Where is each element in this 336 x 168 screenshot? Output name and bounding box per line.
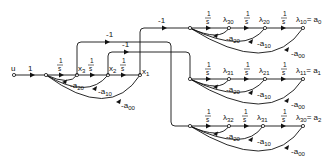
chain-top: 1s 1s 1s λ30 λ20 λ10= a0 -a20 -a10 -a00 (188, 10, 322, 59)
svg-text:s: s (206, 18, 210, 25)
node-sum (44, 73, 47, 76)
svg-text:s: s (282, 69, 286, 76)
svg-text:1: 1 (244, 108, 248, 115)
svg-text:s: s (282, 116, 286, 123)
svg-text:1: 1 (283, 61, 287, 68)
svg-text:s: s (206, 116, 210, 123)
svg-text:-a10: -a10 (257, 90, 271, 100)
node-lambda10: λ10= a0 (296, 15, 322, 25)
svg-text:-a00: -a00 (291, 147, 305, 157)
svg-text:s: s (245, 18, 249, 25)
node-lambda32: λ32 (223, 113, 234, 123)
feedback-a00: -a00 (121, 101, 135, 111)
svg-text:1: 1 (207, 61, 211, 68)
state-x2-label: x2 (109, 64, 117, 74)
diagram-canvas: u 1 1 s 1 s 1 s x3 x2 x1 -a20 -a10 -a00 … (0, 0, 336, 168)
svg-text:s: s (245, 69, 249, 76)
node-lambda31b: λ31 (257, 113, 268, 123)
link-x2-gain: -1 (122, 40, 130, 49)
state-x1-label: x1 (142, 67, 150, 77)
svg-text:s: s (206, 69, 210, 76)
svg-text:-a10: -a10 (257, 39, 271, 49)
svg-text:s: s (89, 65, 93, 72)
main-chain: u 1 1 s 1 s 1 s x3 x2 x1 -a20 -a10 -a00 (11, 57, 150, 111)
svg-text:1: 1 (207, 108, 211, 115)
chain-middle: 1s 1s 1s λ31 λ21 λ11= a1 -a20 -a10 -a00 (188, 61, 321, 110)
input-gain: 1 (28, 64, 33, 73)
node-lambda20: λ20 (259, 15, 270, 25)
svg-text:1: 1 (283, 10, 287, 17)
svg-text:s: s (282, 18, 286, 25)
svg-text:1: 1 (246, 61, 250, 68)
svg-text:1: 1 (122, 57, 126, 64)
chain-bottom: 1s 1s 1s λ32 λ31 λ30= a2 -a20 -a10 -a00 (188, 108, 322, 157)
svg-text:s: s (58, 65, 62, 72)
node-u (12, 73, 15, 76)
svg-text:1: 1 (90, 57, 94, 64)
svg-text:1: 1 (207, 10, 211, 17)
node-lambda21: λ21 (259, 66, 270, 76)
link-x1-gain: -1 (158, 16, 166, 25)
svg-text:1: 1 (59, 57, 63, 64)
svg-text:-a00: -a00 (291, 49, 305, 59)
svg-text:-a20: -a20 (226, 85, 240, 95)
state-x3-label: x3 (78, 64, 86, 74)
svg-text:-a20: -a20 (226, 34, 240, 44)
node-lambda31: λ31 (223, 66, 234, 76)
svg-text:s: s (121, 65, 125, 72)
feedback-a20: -a20 (70, 81, 84, 91)
node-lambda11: λ11= a1 (296, 66, 322, 76)
link-x3-gain: -1 (106, 30, 114, 39)
svg-text:1: 1 (246, 10, 250, 17)
input-label: u (11, 64, 15, 73)
svg-text:-a20: -a20 (226, 132, 240, 142)
svg-text:-a10: -a10 (257, 137, 271, 147)
node-lambda30: λ30 (223, 15, 234, 25)
svg-text:s: s (243, 116, 247, 123)
feedback-a10: -a10 (98, 87, 112, 97)
svg-text:1: 1 (283, 108, 287, 115)
svg-text:-a00: -a00 (291, 100, 305, 110)
node-lambda30b: λ30= a2 (296, 113, 322, 123)
signal-flow-diagram: u 1 1 s 1 s 1 s x3 x2 x1 -a20 -a10 -a00 … (0, 0, 336, 168)
